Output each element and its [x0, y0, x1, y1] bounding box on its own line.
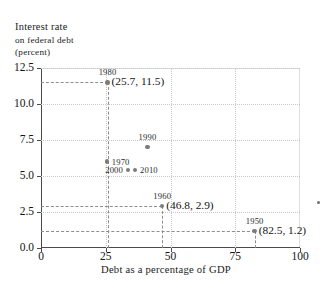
plot-area: 0.02.55.07.510.012.50255075100 1980(25.7…	[41, 68, 300, 248]
guide-line-vertical	[255, 231, 256, 248]
x-axis-title: Debt as a percentage of GDP	[101, 264, 231, 275]
x-axis-tick-label: 25	[100, 251, 112, 263]
y-axis-tick	[37, 212, 41, 213]
data-point	[126, 168, 130, 172]
y-axis-tick	[37, 68, 41, 69]
gridline-vertical	[235, 68, 236, 248]
data-point-coordinates: (82.5, 1.2)	[259, 225, 306, 236]
data-point	[252, 229, 256, 233]
data-point-label: 2000	[105, 166, 123, 175]
guide-line-horizontal	[41, 231, 255, 232]
y-axis-tick	[37, 140, 41, 141]
scatter-chart: Interest rate on federal debt (percent) …	[0, 0, 323, 289]
x-axis-tick-label: 75	[230, 251, 242, 263]
x-axis-tick-label: 50	[165, 251, 177, 263]
y-axis-tick-label: 12.5	[14, 62, 34, 74]
y-axis-title: Interest rate on federal debt (percent)	[15, 21, 74, 59]
gridline-vertical	[171, 68, 172, 248]
guide-line-vertical	[162, 206, 163, 248]
data-point	[105, 159, 109, 163]
x-axis-tick-label: 0	[38, 251, 44, 263]
y-axis-tick-label: 10.0	[14, 98, 34, 110]
y-axis-tick-label: 7.5	[20, 134, 34, 146]
data-point	[105, 80, 109, 84]
x-axis-tick-label: 100	[291, 251, 308, 263]
stray-mark-icon	[317, 201, 320, 204]
y-axis-line	[41, 68, 42, 248]
data-point	[160, 204, 164, 208]
y-axis-tick-label: 0.0	[20, 242, 34, 254]
y-axis-tick	[37, 104, 41, 105]
guide-line-horizontal	[41, 206, 162, 207]
x-axis-title-text: Debt as a percentage of GDP	[101, 264, 231, 275]
plot-frame-right	[299, 68, 300, 248]
guide-line-horizontal	[41, 82, 108, 83]
y-axis-tick	[37, 176, 41, 177]
data-point-coordinates: (25.7, 11.5)	[112, 77, 165, 88]
y-axis-tick-label: 2.5	[20, 206, 34, 218]
y-axis-tick-label: 5.0	[20, 170, 34, 182]
y-axis-title-line-2: on federal debt	[15, 34, 74, 47]
y-axis-title-line-3: (percent)	[15, 46, 74, 59]
data-point-label: 2010	[140, 166, 158, 175]
data-point	[145, 145, 149, 149]
data-point-label: 1990	[139, 134, 157, 143]
data-point	[133, 168, 137, 172]
y-axis-title-line-1: Interest rate	[15, 21, 74, 34]
data-point-coordinates: (46.8, 2.9)	[166, 201, 213, 212]
